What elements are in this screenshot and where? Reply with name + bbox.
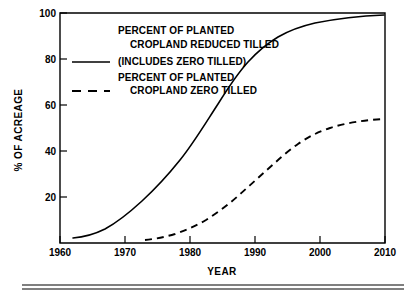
- legend-entry-1-line-2: CROPLAND REDUCED TILLED: [130, 39, 279, 50]
- x-tick-label-2010: 2010: [374, 247, 397, 258]
- series-line-zero-tilled: [145, 119, 384, 240]
- x-axis-tick-labels: 1960 1970 1980 1990 2000 2010: [49, 247, 397, 258]
- chart-figure: 100 80 60 40 20 1960 1970 1980 1990 2000…: [0, 0, 415, 297]
- y-tick-label-100: 100: [39, 8, 56, 19]
- y-axis-title: % OF ACREAGE: [13, 89, 24, 172]
- y-axis-ticks: [60, 13, 67, 197]
- x-axis-title: YEAR: [207, 266, 237, 277]
- x-tick-label-1990: 1990: [244, 247, 267, 258]
- y-tick-label-60: 60: [45, 100, 57, 111]
- y-axis-tick-labels: 100 80 60 40 20: [39, 8, 56, 203]
- chart-legend: PERCENT OF PLANTED CROPLAND REDUCED TILL…: [72, 25, 279, 96]
- x-tick-label-1970: 1970: [114, 247, 137, 258]
- x-tick-label-2000: 2000: [309, 247, 332, 258]
- line-chart: 100 80 60 40 20 1960 1970 1980 1990 2000…: [0, 0, 415, 297]
- footer-double-rule: [22, 285, 404, 289]
- x-tick-label-1980: 1980: [179, 247, 202, 258]
- x-axis-ticks: [60, 236, 385, 243]
- y-tick-label-20: 20: [45, 192, 57, 203]
- x-tick-label-1960: 1960: [49, 247, 72, 258]
- legend-entry-2-line-1: PERCENT OF PLANTED: [118, 72, 234, 83]
- y-tick-label-80: 80: [45, 54, 57, 65]
- legend-entry-1-line-1: PERCENT OF PLANTED: [118, 25, 234, 36]
- legend-entry-2-line-2: CROPLAND ZERO TILLED: [130, 85, 257, 96]
- y-tick-label-40: 40: [45, 146, 57, 157]
- legend-entry-1-line-3: (INCLUDES ZERO TILLED): [118, 56, 246, 67]
